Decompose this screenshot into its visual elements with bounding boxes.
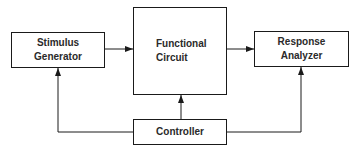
response-analyzer-block: Response Analyzer xyxy=(254,31,349,67)
response-analyzer-label-line2: Analyzer xyxy=(281,49,323,63)
stimulus-generator-label-line1: Stimulus xyxy=(37,36,79,50)
block-diagram: Stimulus Generator Functional Circuit Re… xyxy=(0,0,357,153)
controller-block: Controller xyxy=(133,119,227,145)
controller-label: Controller xyxy=(156,125,204,139)
arrow-controller-to-stimulus xyxy=(58,68,133,132)
response-analyzer-label-line1: Response xyxy=(278,35,326,49)
functional-circuit-label-line1: Functional xyxy=(156,37,207,51)
arrow-controller-to-response xyxy=(227,67,301,132)
functional-circuit-block: Functional Circuit xyxy=(133,7,227,95)
stimulus-generator-block: Stimulus Generator xyxy=(11,32,105,68)
functional-circuit-label-line2: Circuit xyxy=(156,51,188,65)
stimulus-generator-label-line2: Generator xyxy=(34,50,82,64)
